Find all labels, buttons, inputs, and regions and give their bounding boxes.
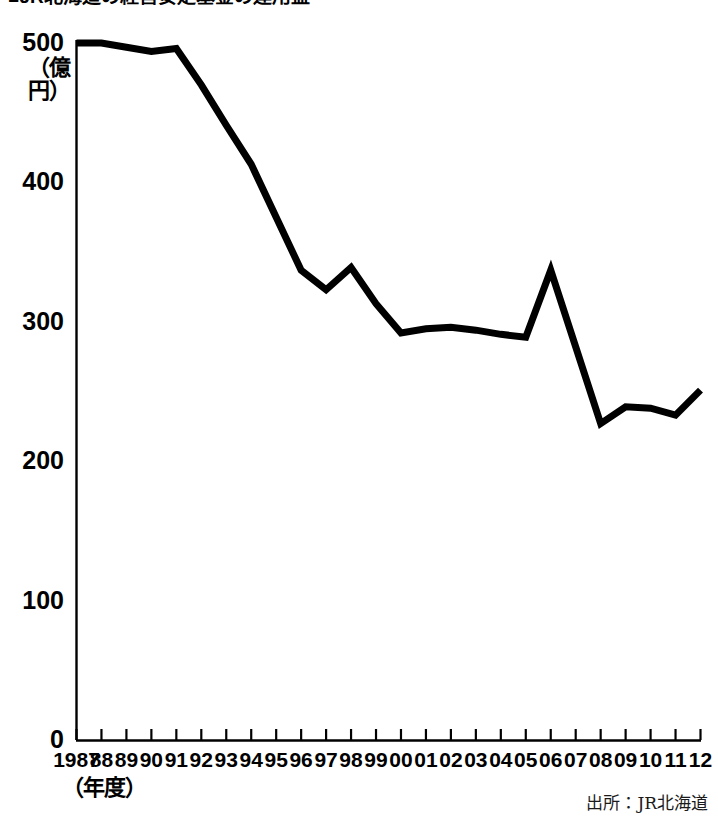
x-axis-tick-label: 12 xyxy=(688,748,714,772)
x-axis-tick-label: 88 xyxy=(88,748,114,772)
x-axis-tick-label: 10 xyxy=(638,748,664,772)
x-axis-tick-labels: 1987888990919293949596979899000102030405… xyxy=(0,748,718,778)
x-axis-unit-label: （年度） xyxy=(62,776,146,800)
x-axis-tick-label: 05 xyxy=(513,748,539,772)
x-axis-tick-label: 06 xyxy=(538,748,564,772)
x-axis-tick-label: 04 xyxy=(488,748,514,772)
x-axis-tick-label: 11 xyxy=(663,748,689,772)
x-axis-tick-label: 01 xyxy=(413,748,439,772)
y-axis-unit-label: （億円） xyxy=(2,56,70,102)
x-axis-tick-label: 94 xyxy=(238,748,264,772)
data-series-line xyxy=(77,43,701,424)
x-axis-tick-label: 07 xyxy=(563,748,589,772)
line-chart-svg xyxy=(0,0,718,790)
x-axis-tick-label: 89 xyxy=(113,748,139,772)
x-axis-tick-label: 02 xyxy=(438,748,464,772)
y-axis-tick-label: 300 xyxy=(2,309,64,334)
source-note: 出所：JR北海道 xyxy=(586,793,708,813)
x-axis-tick-label: 96 xyxy=(288,748,314,772)
x-axis-tick-label: 95 xyxy=(263,748,289,772)
chart-plot-area: 0100200300400500 （億円） xyxy=(0,0,718,790)
y-axis-tick-label: 400 xyxy=(2,169,64,194)
x-axis-tick-label: 09 xyxy=(613,748,639,772)
x-axis-tick-label: 90 xyxy=(138,748,164,772)
x-axis-tick-label: 99 xyxy=(363,748,389,772)
x-axis-tick-label: 97 xyxy=(313,748,339,772)
x-axis-tick-label: 03 xyxy=(463,748,489,772)
x-axis-tick-label: 92 xyxy=(188,748,214,772)
x-axis-tick-label: 91 xyxy=(163,748,189,772)
x-axis-ticks xyxy=(77,729,701,740)
x-axis-tick-label: 98 xyxy=(338,748,364,772)
y-axis-tick-label: 100 xyxy=(2,588,64,613)
x-axis-tick-label: 08 xyxy=(588,748,614,772)
y-axis-tick-label: 200 xyxy=(2,448,64,473)
x-axis-tick-label: 00 xyxy=(388,748,414,772)
x-axis-tick-label: 93 xyxy=(213,748,239,772)
y-axis-tick-label: 500 xyxy=(2,30,64,55)
